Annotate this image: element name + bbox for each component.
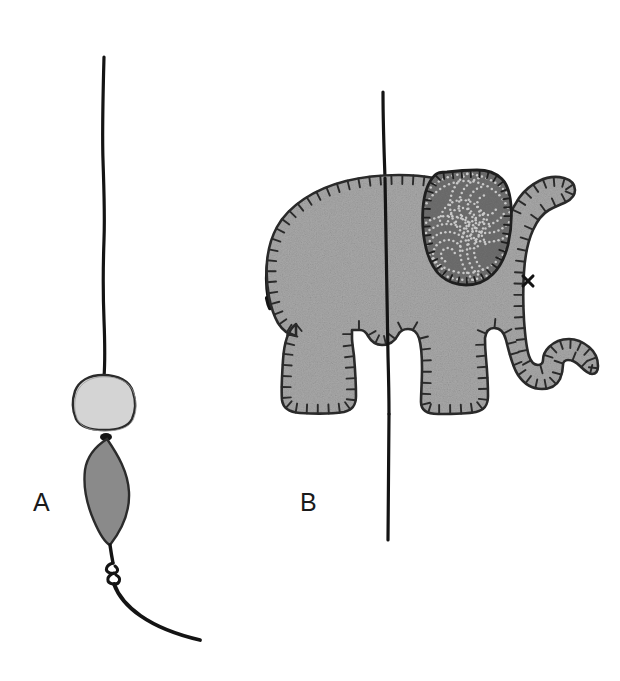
panel-b — [266, 92, 598, 540]
hanging-thread-tail — [114, 584, 200, 640]
figure-canvas — [0, 0, 620, 681]
thread-below-bead — [110, 545, 113, 563]
hanging-thread-through-elephant-upper — [383, 92, 385, 178]
panel-a — [73, 57, 200, 640]
bead-oval-dark — [84, 439, 129, 545]
hanging-thread-below-elephant — [388, 414, 389, 540]
panel-label-a: A — [33, 490, 50, 515]
panel-label-b: B — [300, 490, 317, 515]
hanging-thread-upper — [103, 57, 105, 378]
thread-knot — [106, 563, 119, 584]
figure-root: A B — [0, 0, 620, 681]
bead-round-light — [73, 375, 136, 431]
